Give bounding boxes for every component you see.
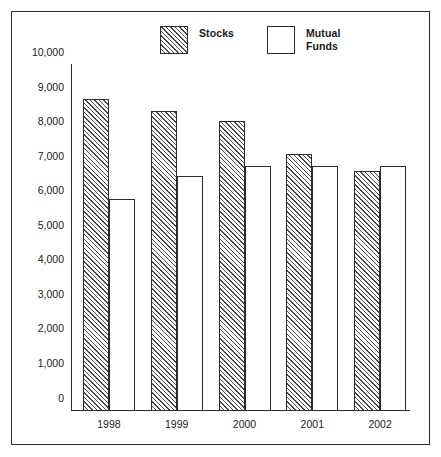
x-axis-tick-label: 2002: [354, 418, 406, 430]
y-axis-tick-label: 10,000: [4, 46, 64, 58]
y-axis-tick-label: 7,000: [4, 150, 64, 162]
x-axis-tick-label: 1998: [83, 418, 135, 430]
x-axis-tick-label: 2001: [286, 418, 338, 430]
hatched-square-icon: [160, 26, 188, 54]
empty-square-icon: [267, 26, 295, 54]
y-axis-tick-label: 5,000: [4, 219, 64, 231]
y-axis-tick-label: 6,000: [4, 184, 64, 196]
bar-group-2002: 2002: [354, 63, 406, 410]
bar-stocks-2002: [354, 171, 380, 409]
legend-label-stocks: Stocks: [199, 26, 234, 40]
bar-mutual-funds-2001: [312, 166, 338, 410]
y-axis-tick-label: 3,000: [4, 288, 64, 300]
bar-group-1999: 1999: [151, 63, 203, 410]
bar-stocks-2000: [219, 121, 245, 410]
y-axis-tick-label: 1,000: [4, 357, 64, 369]
y-axis-tick-label: 4,000: [4, 253, 64, 265]
y-axis-line: [71, 64, 72, 411]
legend-label-mutual-funds: Mutual Funds: [306, 26, 340, 52]
bar-stocks-2001: [286, 154, 312, 410]
bar-mutual-funds-1999: [177, 176, 203, 409]
y-axis-tick-label: 8,000: [4, 115, 64, 127]
y-axis-tick-label: 9,000: [4, 81, 64, 93]
bar-group-2001: 2001: [286, 63, 338, 410]
bar-group-1998: 1998: [83, 63, 135, 410]
x-axis-tick-label: 1999: [151, 418, 203, 430]
bar-group-2000: 2000: [219, 63, 271, 410]
y-axis-tick-label: 2,000: [4, 322, 64, 334]
bar-mutual-funds-2002: [380, 166, 406, 410]
legend-item-mutual-funds: Mutual Funds: [267, 26, 340, 54]
bar-mutual-funds-2000: [245, 166, 271, 410]
bar-stocks-1999: [151, 111, 177, 410]
plot-area: 01,0002,0003,0004,0005,0006,0007,0008,00…: [71, 64, 410, 411]
y-axis-tick-label: 0: [4, 392, 64, 404]
x-axis-tick-label: 2000: [219, 418, 271, 430]
bar-stocks-1998: [83, 99, 109, 410]
bar-mutual-funds-1998: [109, 199, 135, 410]
chart-figure: Stocks Mutual Funds 01,0002,0003,0004,00…: [11, 11, 430, 445]
legend-item-stocks: Stocks: [160, 26, 234, 54]
x-axis-line: [71, 410, 410, 411]
